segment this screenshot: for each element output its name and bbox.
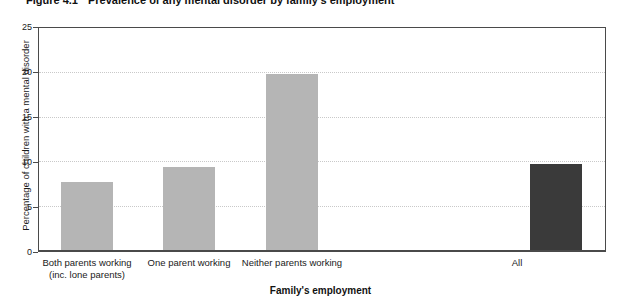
- bar-all[interactable]: [530, 164, 582, 250]
- x-category-line1-both: Both parents working: [42, 257, 131, 268]
- x-category-label-neither-parents-working: Neither parents working: [226, 257, 358, 269]
- y-tick-label-10: 10: [8, 158, 32, 167]
- bar-chart: Percentage of children with a mental dis…: [0, 0, 627, 301]
- gridline-5: [39, 206, 605, 207]
- x-axis-title: Family's employment: [0, 285, 627, 296]
- y-axis-title: Percentage of children with a mental dis…: [20, 16, 31, 256]
- bar-neither-parents-working[interactable]: [266, 74, 318, 250]
- bar-one-parent-working[interactable]: [163, 167, 215, 250]
- x-axis-title-text: Family's employment: [270, 285, 371, 296]
- y-tick-label-0: 0: [8, 248, 32, 257]
- y-tick-label-20: 20: [8, 68, 32, 77]
- x-category-line1-neither: Neither parents working: [242, 257, 342, 268]
- gridline-20: [39, 72, 605, 73]
- gridline-15: [39, 117, 605, 118]
- plot-area: [38, 27, 606, 252]
- y-tick-mark-0: [33, 252, 38, 253]
- y-tick-label-25: 25: [8, 23, 32, 32]
- y-tick-label-15: 15: [8, 113, 32, 122]
- x-category-line2-both: (inc. lone parents): [21, 269, 153, 281]
- x-category-line1-all: All: [512, 257, 523, 268]
- x-category-line1-one: One parent working: [148, 257, 231, 268]
- y-tick-label-5: 5: [8, 203, 32, 212]
- x-category-label-all: All: [490, 257, 544, 269]
- gridline-10: [39, 161, 605, 162]
- bar-both-parents-working[interactable]: [61, 182, 113, 250]
